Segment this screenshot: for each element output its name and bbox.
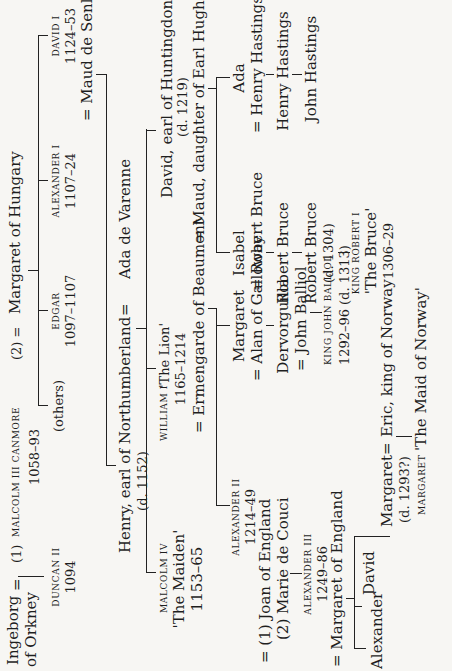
line-john-hastings: [292, 74, 302, 75]
others-label: (others): [52, 380, 65, 432]
alexander1-name: Alexander I: [52, 144, 61, 217]
william1-epithet: 'The Lion': [158, 323, 171, 388]
david1-reign: 1124–53: [64, 8, 77, 64]
line-john-balliol-king: [310, 312, 322, 313]
line-isabel: [216, 252, 230, 253]
ada-spouse: = Henry Hastings: [250, 0, 265, 133]
david1-name: David I: [52, 15, 61, 56]
ada-hastings: Ada: [232, 63, 247, 92]
malcolm4-epithet: 'The Maiden': [172, 530, 187, 629]
line-malcolm4: [146, 572, 156, 573]
alexander2-spouse-1: = (1) Joan of England: [258, 499, 273, 663]
duncan2-reign: 1094: [64, 560, 77, 593]
william1-spouse: = Ermengarde of Beaumont: [192, 219, 207, 433]
alexander2-spouse-2: (2) Marie de Couci: [276, 497, 291, 640]
robert-bruce-3-death: (d. 1304): [322, 223, 335, 283]
marriage-number-2: (2) =: [10, 327, 23, 360]
edgar-name: Edgar: [52, 292, 61, 329]
david1-spouse: = Maud de Senlis: [80, 0, 95, 121]
king-john-balliol-reign: 1292–96: [338, 309, 351, 365]
line-david-son: [354, 606, 362, 607]
robert-bruce-2: Robert Bruce: [276, 202, 291, 304]
eric-king-of-norway: Eric, king of Norway: [380, 279, 395, 437]
david-huntingdon-spouse: = Maud, daughter of Earl Hugh of Chester: [192, 0, 207, 243]
line-robert1: [338, 252, 350, 253]
line-gen4-bar: [146, 129, 147, 573]
line-henry-down: [136, 328, 146, 329]
line-william-down: [208, 308, 216, 309]
line-robert-bruce-2: [266, 252, 274, 253]
line-maid-of-norway: [396, 436, 412, 437]
isabel-spouse: = Robert Bruce: [250, 172, 265, 291]
robert1-epithet: 'The Bruce': [364, 208, 379, 295]
line-edgar: [38, 310, 48, 311]
maid-of-norway-name: Margaret: [418, 455, 427, 515]
equals-sign: =: [380, 442, 395, 455]
line-david-huntingdon: [146, 130, 156, 131]
line-alexander1: [38, 180, 48, 181]
maid-of-norway-epithet: 'The Maid of Norway': [414, 287, 429, 451]
malcolm3-reign: 1058–93: [28, 429, 41, 485]
margaret-daughter-death: (d. 1293?): [398, 456, 411, 523]
line-robert-bruce-3: [292, 252, 302, 253]
david-huntingdon: David, earl of Huntingdon: [160, 0, 175, 198]
robert-bruce-3: Robert Bruce: [304, 202, 319, 304]
david-huntingdon-death: (d. 1219): [176, 77, 189, 137]
line-gen5-bar-right: [216, 77, 217, 253]
line-ada: [216, 77, 230, 78]
duncan2-name: Duncan II: [52, 547, 61, 606]
line-david-hunt-down: [208, 88, 216, 89]
line-margaret-down: [28, 270, 38, 271]
margaret-of-hungary: Margaret of Hungary: [8, 151, 23, 314]
line-margaret-galloway: [216, 325, 230, 326]
line-alexander-son: [354, 648, 366, 649]
line-children-bar: [38, 36, 39, 406]
malcolm4-name: Malcolm IV: [160, 543, 169, 613]
william1-name: William I: [160, 385, 169, 441]
robert1-reign: 1306–29: [382, 223, 395, 279]
alexander1-reign: 1107–24: [64, 153, 77, 209]
line-henry-hastings-2: [266, 74, 274, 75]
line-david1-down: [96, 74, 106, 75]
alexander3-spouse: = Margaret of England: [330, 490, 345, 667]
genealogy-chart: Ingeborg of Orkney = (1) Malcolm III Can…: [0, 0, 452, 671]
equals-sign: =: [118, 303, 133, 316]
line-henry: [106, 465, 116, 466]
line-margaret-daughter: [354, 536, 390, 537]
malcolm4-reign: 1153–65: [190, 547, 205, 612]
marriage-number-1: (1): [10, 545, 23, 563]
margaret-daughter: Margaret: [380, 455, 395, 527]
line-gen5-bar-left: [216, 308, 217, 506]
malcolm3-name: Malcolm III Canmore: [12, 407, 21, 537]
robert1-name: King Robert I: [352, 212, 361, 294]
edgar-reign: 1097–1107: [64, 275, 77, 348]
henry-northumberland: Henry, earl of Northumberland: [118, 317, 133, 553]
king-john-balliol-death: (d. 1313): [338, 245, 351, 305]
isabel: Isabel: [232, 230, 247, 276]
william1-reign: 1165–1214: [174, 333, 187, 406]
line-others: [38, 405, 48, 406]
line-alexander2: [216, 505, 230, 506]
alexander3-name: Alexander III: [304, 533, 313, 614]
margaret-galloway: Margaret: [232, 290, 247, 362]
henry-hastings-2: Henry Hastings: [276, 11, 291, 131]
ingeborg-name: Ingeborg: [6, 596, 21, 665]
ada-de-varenne: Ada de Varenne: [118, 159, 133, 279]
alexander2-name: Alexander II: [232, 478, 241, 555]
line-duncan: [18, 576, 44, 577]
line-henry-bar: [106, 74, 107, 466]
line-dervorguilla: [266, 325, 274, 326]
line-alexander3-down: [346, 598, 354, 599]
alexander-son: Alexander: [370, 592, 385, 669]
david-son: David: [362, 551, 377, 595]
line-david1: [38, 35, 48, 36]
line-alexander3: [290, 573, 302, 574]
ingeborg-of-orkney: of Orkney: [24, 592, 39, 667]
equals-sign: =: [10, 578, 25, 591]
line-william: [146, 368, 156, 369]
john-hastings: John Hastings: [304, 16, 319, 123]
line-gen7-bar: [354, 537, 355, 649]
